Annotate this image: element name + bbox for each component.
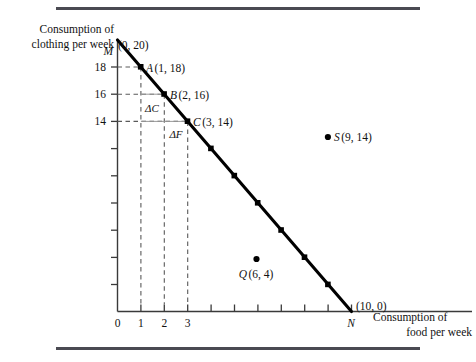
y-tick-label-16: 16: [95, 88, 107, 100]
point-marker-B: [161, 91, 167, 97]
label-B: B(2, 16): [170, 89, 209, 102]
label-Q: Q(6, 4): [239, 268, 274, 281]
y-tick-label-18: 18: [95, 61, 107, 73]
figure-container: Consumption of clothing per week Consump…: [0, 0, 476, 362]
label-N: N: [346, 317, 356, 329]
point-marker-A: [138, 64, 144, 70]
x-axis-title-line2: food per week: [406, 326, 472, 339]
x-tick-label-1: 1: [138, 317, 144, 329]
point-marker-4: [208, 146, 214, 152]
point-marker-Q: [253, 256, 259, 262]
delta-c-label: ΔC: [144, 102, 159, 114]
point-marker-8: [302, 254, 308, 260]
point-marker-7: [278, 227, 284, 233]
x-axis-title-line1: Consumption of: [373, 311, 448, 324]
y-axis-title-line2: clothing per week: [32, 38, 115, 51]
point-marker-6: [255, 200, 261, 206]
y-tick-label-14: 14: [95, 115, 107, 127]
x-tick-label-2: 2: [161, 317, 167, 329]
budget-constraint-chart: Consumption of clothing per week Consump…: [0, 0, 476, 362]
x-tick-label-0: 0: [115, 317, 121, 329]
label-M: M: [102, 45, 114, 57]
delta-f-label: ΔF: [168, 128, 182, 140]
point-marker-5: [232, 173, 238, 179]
point-marker-S: [325, 134, 331, 140]
label-A: A(1, 18): [145, 62, 185, 75]
label-N-coords: (10, 0): [356, 300, 387, 313]
label-M-coords: (0, 20): [118, 39, 149, 52]
point-marker-C: [185, 118, 191, 124]
label-C: C(3, 14): [193, 116, 233, 129]
x-tick-label-3: 3: [185, 317, 191, 329]
y-axis-title-line1: Consumption of: [40, 23, 115, 36]
point-marker-9: [325, 282, 331, 288]
label-S: S(9, 14): [334, 131, 372, 144]
